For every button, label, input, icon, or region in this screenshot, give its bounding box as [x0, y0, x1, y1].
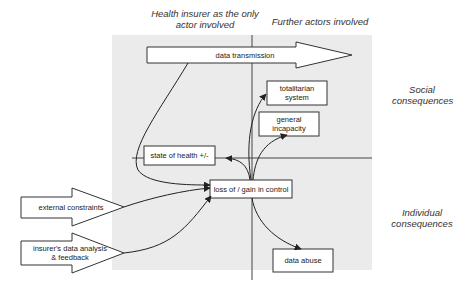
- label-data-transmission: data transmission: [200, 48, 290, 62]
- label-loss-gain-control: loss of / gain in control: [210, 180, 292, 198]
- label-insurer-analysis: insurer's data analysis & feedback: [30, 242, 110, 264]
- header-social-consequences: Social consequences: [392, 84, 452, 106]
- header-individual-consequences: Individual consequences: [387, 207, 457, 229]
- header-further-actors: Further actors involved: [265, 16, 375, 27]
- label-state-of-health: state of health +/-: [144, 146, 215, 165]
- label-general-incapacity: general incapacity: [265, 112, 313, 136]
- label-data-abuse: data abuse: [273, 249, 333, 272]
- header-health-insurer-only: Health insurer as the only actor involve…: [140, 8, 270, 30]
- label-totalitarian-system: totalitarian system: [267, 81, 327, 105]
- label-external-constraints: external constraints: [30, 198, 112, 217]
